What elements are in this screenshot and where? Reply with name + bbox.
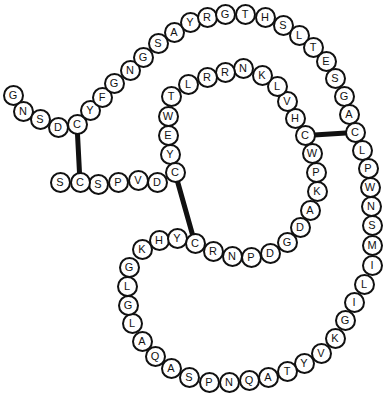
residue-s: S bbox=[50, 172, 71, 193]
residue-n: N bbox=[233, 58, 254, 79]
residue-p: P bbox=[358, 158, 379, 179]
residue-t: T bbox=[277, 361, 298, 382]
residue-g: G bbox=[119, 257, 140, 278]
residue-k: K bbox=[252, 65, 273, 86]
residue-l: L bbox=[122, 313, 143, 334]
residue-i: I bbox=[362, 255, 383, 276]
residue-p: P bbox=[199, 372, 220, 393]
residue-a: A bbox=[258, 367, 279, 388]
residue-s: S bbox=[179, 367, 200, 388]
residue-k: K bbox=[307, 181, 328, 202]
residue-q: Q bbox=[239, 370, 260, 391]
residue-g: G bbox=[215, 4, 236, 25]
residue-t: T bbox=[235, 4, 256, 25]
residue-s: S bbox=[88, 174, 109, 195]
residue-w: W bbox=[158, 106, 179, 127]
residue-a: A bbox=[300, 200, 321, 221]
residue-n: N bbox=[222, 246, 243, 267]
residue-d: D bbox=[48, 117, 69, 138]
residue-n: N bbox=[361, 196, 382, 217]
residue-l: L bbox=[117, 276, 138, 297]
residue-r: R bbox=[215, 62, 236, 83]
residue-w: W bbox=[360, 177, 381, 198]
residue-d: D bbox=[147, 172, 168, 193]
residue-p: P bbox=[306, 162, 327, 183]
residue-g: G bbox=[118, 295, 139, 316]
residue-s: S bbox=[362, 215, 383, 236]
residue-w: W bbox=[302, 143, 323, 164]
residue-p: P bbox=[241, 247, 262, 268]
residue-t: T bbox=[161, 86, 182, 107]
residue-r: R bbox=[197, 67, 218, 88]
residue-v: V bbox=[128, 170, 149, 191]
residue-c: C bbox=[165, 162, 186, 183]
residue-p: P bbox=[108, 172, 129, 193]
residue-e: E bbox=[158, 125, 179, 146]
residue-c: C bbox=[70, 172, 91, 193]
residue-a: A bbox=[132, 331, 153, 352]
residue-m: M bbox=[362, 235, 383, 256]
residue-r: R bbox=[203, 241, 224, 262]
peptide-diagram: GNSDCYFGNGSAYRGTHSLTESGACLPWNSMILIGKVYTA… bbox=[0, 0, 388, 394]
residue-n: N bbox=[219, 372, 240, 393]
